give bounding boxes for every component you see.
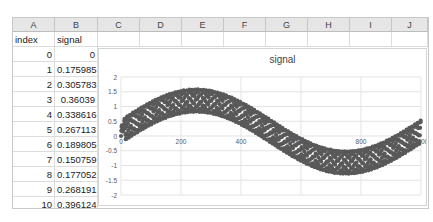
cell-signal[interactable]: 0.150759 bbox=[55, 152, 98, 167]
x-tick-label: 400 bbox=[236, 138, 247, 145]
cell-index[interactable]: 0 bbox=[13, 47, 55, 62]
scatter-chart[interactable]: signal 21.510.50-0.5-1-1.5-2020040060080… bbox=[98, 48, 427, 206]
cell-index[interactable]: 4 bbox=[13, 107, 55, 122]
column-header-e[interactable]: E bbox=[182, 18, 224, 32]
cell-index[interactable]: 3 bbox=[13, 92, 55, 107]
cell-j1[interactable] bbox=[392, 32, 428, 47]
y-tick-label: 1 bbox=[113, 103, 117, 110]
cell-signal[interactable]: 0.338616 bbox=[55, 107, 98, 122]
series-markers bbox=[119, 87, 423, 175]
cell-i1[interactable] bbox=[350, 32, 392, 47]
cell-signal[interactable]: 0.305783 bbox=[55, 77, 98, 92]
cell-b1[interactable]: signal bbox=[55, 32, 98, 47]
spreadsheet: ABCDEFGHIJindexsignal0010.17598520.30578… bbox=[12, 17, 429, 209]
column-header-j[interactable]: J bbox=[392, 18, 428, 32]
x-tick-label: 800 bbox=[356, 138, 367, 145]
cell-signal[interactable]: 0.36039 bbox=[55, 92, 98, 107]
y-tick-label: 0 bbox=[113, 133, 117, 140]
cell-index[interactable]: 7 bbox=[13, 152, 55, 167]
cell-signal[interactable]: 0.396124 bbox=[55, 197, 98, 209]
x-tick-label: 0 bbox=[119, 138, 123, 145]
cell-index[interactable]: 8 bbox=[13, 167, 55, 182]
x-tick-label: 1000 bbox=[414, 138, 426, 145]
cell-index[interactable]: 1 bbox=[13, 62, 55, 77]
cell-signal[interactable]: 0.268191 bbox=[55, 182, 98, 197]
cell-index[interactable]: 5 bbox=[13, 122, 55, 137]
cell-signal[interactable]: 0.267113 bbox=[55, 122, 98, 137]
cell-d1[interactable] bbox=[140, 32, 182, 47]
column-header-g[interactable]: G bbox=[266, 18, 308, 32]
x-tick-label: 200 bbox=[176, 138, 187, 145]
x-tick-label: 600 bbox=[296, 138, 307, 145]
cell-index[interactable]: 10 bbox=[13, 197, 55, 209]
cell-e1[interactable] bbox=[182, 32, 224, 47]
cell-index[interactable]: 9 bbox=[13, 182, 55, 197]
y-tick-label: -1 bbox=[111, 162, 117, 169]
column-header-i[interactable]: I bbox=[350, 18, 392, 32]
column-header-h[interactable]: H bbox=[308, 18, 350, 32]
column-header-d[interactable]: D bbox=[140, 18, 182, 32]
column-header-a[interactable]: A bbox=[13, 18, 55, 32]
y-tick-label: -0.5 bbox=[106, 147, 118, 154]
y-tick-label: -2 bbox=[111, 192, 117, 199]
cell-f1[interactable] bbox=[224, 32, 266, 47]
cell-h1[interactable] bbox=[308, 32, 350, 47]
column-header-f[interactable]: F bbox=[224, 18, 266, 32]
y-tick-label: -1.5 bbox=[106, 177, 118, 184]
cell-a1[interactable]: index bbox=[13, 32, 55, 47]
y-tick-label: 1.5 bbox=[108, 88, 117, 95]
cell-g1[interactable] bbox=[266, 32, 308, 47]
plot-area: 21.510.50-0.5-1-1.5-202004006008001000 bbox=[99, 49, 426, 205]
chart-title: signal bbox=[99, 54, 426, 65]
cell-signal[interactable]: 0 bbox=[55, 47, 98, 62]
y-tick-label: 2 bbox=[113, 74, 117, 81]
column-header-b[interactable]: B bbox=[55, 18, 98, 32]
cell-signal[interactable]: 0.189805 bbox=[55, 137, 98, 152]
y-tick-label: 0.5 bbox=[108, 118, 117, 125]
cell-c1[interactable] bbox=[98, 32, 140, 47]
cell-index[interactable]: 6 bbox=[13, 137, 55, 152]
cell-index[interactable]: 2 bbox=[13, 77, 55, 92]
column-header-c[interactable]: C bbox=[98, 18, 140, 32]
cell-signal[interactable]: 0.177052 bbox=[55, 167, 98, 182]
cell-signal[interactable]: 0.175985 bbox=[55, 62, 98, 77]
